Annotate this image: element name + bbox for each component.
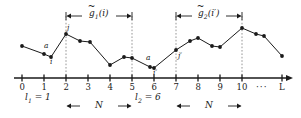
bracket-g2-label: g2(i′) — [198, 9, 220, 20]
label-a-left: a — [44, 42, 48, 50]
label-a-right: a — [146, 54, 150, 62]
bracket-n-left-label: N — [95, 101, 103, 110]
label-j-right: j′ — [178, 52, 182, 60]
marker-l2: l2 = 6 — [135, 93, 161, 104]
data-point-19 — [280, 54, 284, 58]
axis-tick-label-0: 0 — [20, 83, 25, 92]
data-point-13 — [196, 36, 200, 40]
data-point-0 — [20, 44, 24, 48]
bottom-brackets-group — [67, 103, 242, 108]
bracket-g2-arrow-left — [177, 13, 182, 18]
data-point-7 — [122, 55, 126, 59]
axis-tick-label-L: L — [279, 83, 285, 92]
data-polyline — [22, 28, 282, 68]
bracket-g1-arrow-right — [127, 13, 132, 18]
label-i-right: i′ — [153, 69, 157, 77]
axis-tick-label-4: 4 — [108, 83, 113, 92]
bracket-n-left-arrow-left — [67, 103, 72, 108]
axis-tick-label-2: 2 — [64, 83, 69, 92]
bracket-n-right-arrow-left — [177, 103, 182, 108]
bracket-n-left-arrow-right — [127, 103, 132, 108]
data-point-18 — [262, 34, 266, 38]
data-point-5 — [88, 40, 92, 44]
data-point-17 — [254, 32, 258, 36]
axis-tick-label-1: 1 — [42, 83, 47, 92]
axis-tick-label-5: 5 — [130, 83, 135, 92]
figure-canvas: 012345678910···Ll1 = 1l2 = 6aijai′j′g1(i… — [0, 0, 301, 118]
label-j-left: j — [67, 24, 69, 32]
data-point-6 — [108, 63, 112, 67]
data-point-8 — [130, 56, 134, 60]
bracket-n-right-label: N — [205, 101, 213, 110]
data-point-1 — [42, 52, 46, 56]
bracket-n-right-arrow-right — [237, 103, 242, 108]
marker-l1: l1 = 1 — [25, 93, 51, 104]
axis-tick-label-7: 7 — [174, 83, 179, 92]
bracket-g2-arrow-right — [237, 13, 242, 18]
data-point-4 — [78, 39, 82, 43]
axis-tick-label-9: 9 — [218, 83, 223, 92]
data-point-16 — [240, 26, 244, 30]
axis-tick-label-10: 10 — [237, 83, 248, 92]
data-point-14 — [210, 44, 214, 48]
axis-tick-label-3: 3 — [86, 83, 91, 92]
data-polyline-group — [20, 26, 284, 70]
data-point-3 — [64, 32, 68, 36]
label-i-left: i — [50, 58, 52, 66]
axis-tick-label-8: 8 — [196, 83, 201, 92]
axis-tick-label-eee: ··· — [256, 83, 268, 92]
data-point-15 — [218, 45, 222, 49]
bracket-g1-label: g1(i) — [89, 9, 109, 20]
axis-arrowhead — [286, 75, 293, 81]
data-point-9 — [148, 65, 152, 69]
bracket-g1-arrow-left — [67, 13, 72, 18]
axis-tick-label-6: 6 — [152, 83, 157, 92]
data-point-12 — [188, 39, 192, 43]
